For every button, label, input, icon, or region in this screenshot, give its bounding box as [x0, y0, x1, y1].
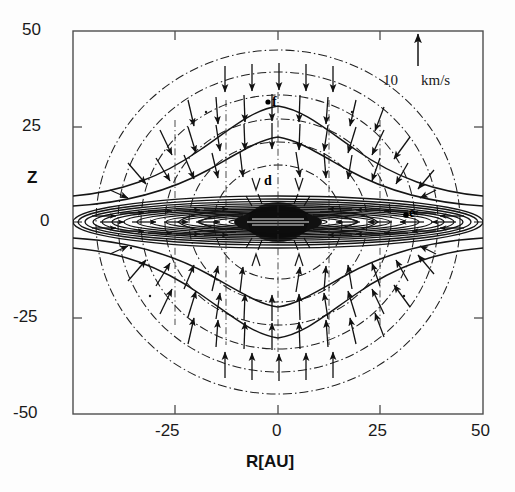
- y-tick-label-0: 0: [40, 211, 49, 231]
- annotation-f: f: [272, 94, 277, 110]
- legend-units: km/s: [421, 72, 450, 89]
- x-axis-title: R[AU]: [246, 452, 294, 472]
- velocity-field-lower: [110, 246, 436, 381]
- x-tick-label-0: 0: [272, 421, 281, 441]
- y-axis-title: Z: [27, 168, 37, 188]
- y-tick-label-m50: -50: [13, 403, 38, 423]
- y-tick-label-m25: -25: [13, 307, 38, 327]
- y-tick-label-25: 25: [22, 116, 41, 136]
- y-tick-label-50: 50: [22, 20, 41, 40]
- annotation-e: e: [409, 205, 415, 221]
- figure-root: 50 25 0 -25 -50 -25 0 25 50 Z R[AU] 10 k…: [0, 0, 515, 492]
- x-tick-label-m25: -25: [155, 421, 180, 441]
- x-tick-label-25: 25: [368, 421, 387, 441]
- annotation-d: d: [264, 173, 272, 189]
- x-tick-label-50: 50: [471, 421, 490, 441]
- legend-value: 10: [383, 72, 398, 89]
